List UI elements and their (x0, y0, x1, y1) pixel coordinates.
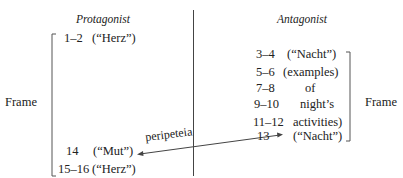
arrow-head-left-icon (137, 151, 144, 156)
left-label-3: (“Herz”) (92, 163, 136, 176)
right-num-3: 7–8 (256, 82, 275, 95)
right-num-6: 13 (257, 130, 270, 143)
left-frame-bracket (52, 34, 56, 176)
left-label-2: (“Mut”) (93, 145, 133, 158)
left-num-3: 15–16 (58, 163, 89, 176)
left-frame-label: Frame (5, 96, 37, 109)
right-num-2: 5–6 (256, 66, 275, 79)
right-label-2: (examples) (283, 66, 339, 79)
right-frame-bracket (346, 52, 350, 141)
left-num-2: 14 (66, 145, 79, 158)
left-num-1: 1–2 (64, 32, 83, 45)
right-num-4: 9–10 (254, 98, 279, 111)
right-label-4: night’s (300, 98, 334, 111)
protagonist-heading: Protagonist (76, 14, 130, 26)
right-label-3: of (305, 82, 315, 95)
right-num-1: 3–4 (256, 48, 275, 61)
right-label-1: (“Nacht”) (287, 48, 336, 61)
antagonist-heading: Antagonist (277, 14, 327, 26)
right-num-5: 11–12 (253, 116, 284, 129)
right-frame-label: Frame (365, 96, 397, 109)
left-label-1: (“Herz”) (92, 32, 136, 45)
diagram-lines (0, 0, 403, 178)
arrow-head-right-icon (277, 133, 283, 138)
right-label-5: activities) (293, 116, 342, 129)
right-label-6: (“Nacht”) (293, 130, 342, 143)
